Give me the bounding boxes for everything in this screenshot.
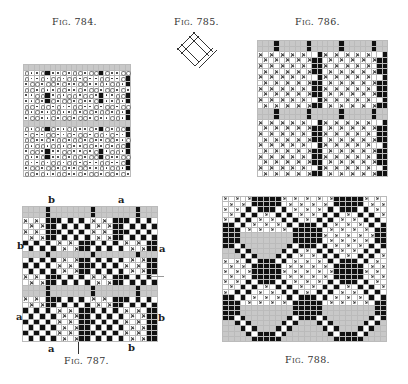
weave-cell [269,41,273,46]
weave-cell [270,238,275,242]
weave-cell [287,269,292,273]
weave-cell [264,254,269,258]
weave-cell [51,218,56,223]
weave-cell [301,171,305,176]
weave-cell [293,285,298,289]
weave-cell [345,41,349,46]
weave-cell [246,269,251,273]
weave-cell [79,297,84,302]
weave-cell [51,160,55,165]
weave-cell [340,223,345,227]
weave-cell [88,104,92,109]
weave-cell [299,207,304,211]
weave-cell [79,314,84,319]
weave-cell [115,87,119,92]
weave-cell [124,325,129,330]
weave-cell [305,223,310,227]
weave-cell [323,86,327,91]
weave-cell [61,82,65,87]
weave-cell [328,154,332,159]
weave-cell [130,218,135,223]
weave-cell [345,47,349,52]
weave-cell [241,311,246,315]
weave-cell [311,223,316,227]
weave-cell [40,246,45,251]
weave-cell [364,295,369,299]
weave-cell [130,291,135,296]
weave-cell [328,69,332,74]
weave-cell [269,52,273,57]
weave-cell [372,137,376,142]
weave-cell [147,325,152,330]
weave-cell [323,218,328,222]
weave-cell [147,269,152,274]
weave-cell [246,254,251,258]
weave-cell [94,93,98,98]
weave-cell [358,290,363,294]
weave-cell [241,280,246,284]
weave-cell [107,241,112,246]
weave-cell [57,303,62,308]
weave-cell [340,202,345,206]
weave-cell [377,98,381,103]
weave-cell [252,202,257,206]
weave-cell [339,92,343,97]
fig-784-caption: Fig. 784. [52,16,97,27]
weave-cell [119,241,124,246]
weave-cell [287,238,292,242]
weave-cell [152,308,157,313]
fig-787-weave-grid [22,206,158,342]
weave-cell [339,109,343,114]
weave-cell [358,311,363,315]
weave-cell [51,213,56,218]
weave-cell [282,321,287,325]
weave-cell [364,254,369,258]
weave-cell [352,301,357,305]
weave-cell [107,218,112,223]
weave-cell [126,65,130,70]
weave-cell [311,295,316,299]
weave-cell [83,132,87,137]
weave-cell [290,137,294,142]
weave-cell [120,149,124,154]
weave-cell [126,149,130,154]
fig-787-caption: Fig. 787. [64,355,109,366]
weave-cell [258,223,263,227]
weave-cell [120,171,124,176]
weave-cell [57,331,62,336]
weave-cell [67,171,71,176]
weave-cell [115,155,119,160]
weave-cell [24,121,28,126]
weave-cell [235,306,240,310]
weave-cell [280,126,284,131]
weave-cell [79,308,84,313]
weave-cell [110,132,114,137]
weave-cell [74,303,79,308]
weave-cell [375,311,380,315]
weave-cell [46,320,51,325]
weave-cell [339,86,343,91]
weave-cell [299,197,304,201]
weave-cell [369,202,374,206]
weave-cell [311,202,316,206]
weave-cell [56,127,60,132]
weave-cell [126,87,130,92]
weave-cell [264,244,269,248]
weave-cell [110,166,114,171]
weave-cell [340,321,345,325]
weave-cell [334,92,338,97]
weave-cell [147,303,152,308]
weave-cell [99,160,103,165]
weave-cell [258,337,263,341]
weave-cell [369,249,374,253]
weave-cell [94,155,98,160]
weave-cell [305,306,310,310]
weave-cell [110,155,114,160]
weave-cell [381,285,386,289]
weave-cell [355,52,359,57]
weave-cell [323,332,328,336]
weave-cell [290,154,294,159]
weave-cell [287,218,292,222]
weave-cell [270,259,275,263]
weave-cell [29,331,34,336]
